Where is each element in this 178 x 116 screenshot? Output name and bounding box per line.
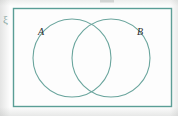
venn-diagram-canvas: ξ A B — [0, 0, 178, 116]
venn-diagram-figure: ξ A B — [0, 0, 178, 116]
top-crop-artifact — [100, 0, 114, 3]
universal-set-symbol-label: ξ — [3, 13, 8, 26]
set-a-label: A — [37, 26, 45, 37]
set-b-label: B — [137, 26, 143, 37]
